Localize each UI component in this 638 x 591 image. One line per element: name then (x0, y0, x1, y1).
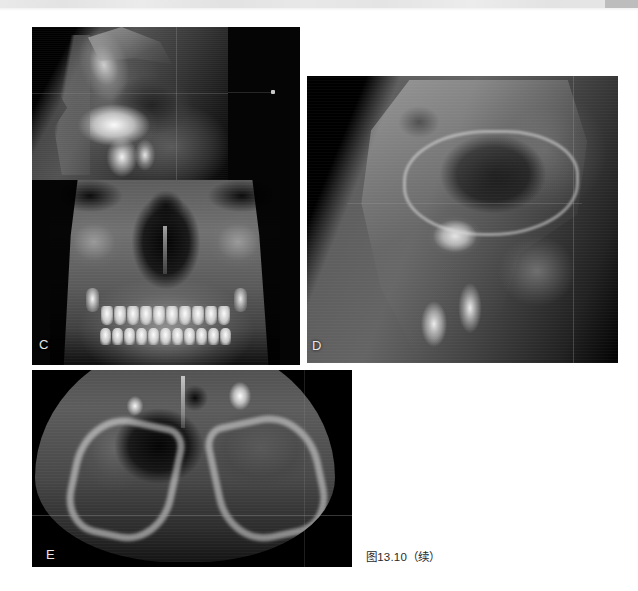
scanner-edge-shadow (0, 8, 638, 11)
tooth (166, 306, 178, 325)
tooth (114, 306, 126, 325)
panel-label-c: C (39, 337, 49, 352)
tooth (101, 306, 113, 325)
tooth (196, 328, 207, 345)
figure-caption: 图13.10（续） (366, 548, 441, 564)
tooth (220, 328, 231, 345)
panel-c-crosshair-vertical (176, 27, 177, 180)
panel-e-crosshair-vertical (304, 370, 305, 567)
tooth (127, 306, 139, 325)
tooth (140, 306, 152, 325)
maxillary-teeth-row (100, 306, 230, 326)
tooth (192, 306, 204, 325)
impacted-canine-left (86, 288, 99, 312)
ct-noise-overlay (307, 76, 618, 363)
scanner-edge-band (0, 0, 638, 8)
panel-d-crosshair-vertical (573, 76, 574, 363)
tooth (218, 306, 230, 325)
ct-noise-overlay (35, 370, 335, 562)
tooth (179, 306, 191, 325)
tooth (205, 306, 217, 325)
figure-panel-e: E (32, 370, 352, 567)
panel-e-axial-dome-clip (35, 370, 335, 562)
cranial-vault-region (88, 27, 172, 85)
facial-soft-tissue-profile (46, 35, 90, 175)
panel-d-crosshair-horizontal (347, 203, 582, 204)
nasal-septum (163, 226, 167, 274)
panel-label-d: D (312, 338, 322, 353)
tooth (153, 306, 165, 325)
panel-c-crosshair-horizontal (32, 93, 228, 94)
figure-panel-d: D (307, 76, 618, 363)
panel-c-reference-ray (228, 92, 272, 93)
tooth (160, 328, 171, 345)
mandibular-teeth-row (98, 328, 232, 347)
figure-panel-c: C (32, 27, 300, 365)
tooth (100, 328, 111, 345)
tooth (112, 328, 123, 345)
tooth (172, 328, 183, 345)
tooth (136, 328, 147, 345)
panel-label-e: E (46, 547, 55, 562)
tooth (124, 328, 135, 345)
panel-c-frontal-3d-render (50, 180, 280, 365)
panel-c-reference-marker (271, 90, 275, 94)
tooth (208, 328, 219, 345)
tooth (184, 328, 195, 345)
tooth (148, 328, 159, 345)
panel-c-sagittal-image (32, 27, 228, 180)
impacted-canine-right (234, 288, 247, 312)
